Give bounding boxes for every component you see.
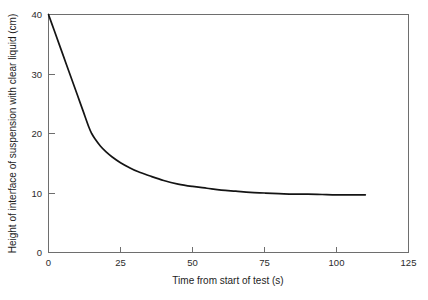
y-tick-label-30: 30 — [31, 69, 42, 80]
x-tick-label-125: 125 — [401, 257, 417, 268]
x-tick-labels: 0 25 50 75 100 125 — [46, 257, 417, 268]
x-axis-ticks — [49, 247, 409, 253]
data-series-line — [49, 15, 366, 195]
y-tick-label-0: 0 — [37, 247, 42, 258]
chart-figure: 40 30 20 10 0 0 25 50 75 100 125 Time fr… — [0, 0, 428, 300]
x-tick-label-25: 25 — [115, 257, 126, 268]
y-axis-title: Height of interface of suspension with c… — [7, 14, 18, 254]
y-tick-label-40: 40 — [31, 9, 42, 20]
y-axis-ticks — [49, 15, 55, 253]
y-tick-label-20: 20 — [31, 128, 42, 139]
x-tick-label-100: 100 — [329, 257, 345, 268]
x-tick-label-75: 75 — [259, 257, 270, 268]
plot-frame — [49, 15, 409, 253]
x-tick-label-0: 0 — [46, 257, 51, 268]
x-axis-title: Time from start of test (s) — [172, 275, 283, 286]
y-tick-labels: 40 30 20 10 0 — [31, 9, 42, 258]
y-tick-label-10: 10 — [31, 188, 42, 199]
axis-frame-path — [49, 15, 409, 253]
x-tick-label-50: 50 — [187, 257, 198, 268]
chart-svg: 40 30 20 10 0 0 25 50 75 100 125 Time fr… — [0, 0, 428, 300]
